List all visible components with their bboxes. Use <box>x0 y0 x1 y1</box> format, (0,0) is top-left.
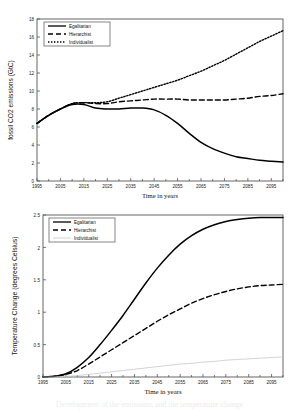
x-axis-label: Time in years <box>142 192 178 199</box>
y-tick-label: 0.5 <box>34 343 41 348</box>
x-tick-label: 2055 <box>175 380 186 385</box>
y-axis-label: fossil CO2 emissions (GtC) <box>7 60 15 140</box>
y-tick-label: 14 <box>29 53 35 58</box>
x-tick-label: 1995 <box>32 184 43 189</box>
legend-label-individualist: Individualist <box>74 236 99 241</box>
x-tick-label: 2005 <box>61 380 72 385</box>
y-tick-label: 6 <box>31 125 34 130</box>
x-axis-label: Time in years <box>144 388 181 395</box>
x-tick-label: 2015 <box>79 184 90 189</box>
x-tick-label: 2065 <box>198 380 209 385</box>
x-tick-label: 2055 <box>172 184 183 189</box>
legend-label-egalitarian: Egalitarian <box>69 24 91 29</box>
chart-bottom-canvas: 00.511.522.51995200520152025203520452055… <box>0 206 299 411</box>
x-tick-label: 2075 <box>219 184 230 189</box>
x-tick-label: 2095 <box>266 184 277 189</box>
x-tick-label: 2085 <box>244 380 255 385</box>
x-tick-label: 2025 <box>102 184 113 189</box>
x-tick-label: 2015 <box>84 380 95 385</box>
y-tick-label: 4 <box>31 143 34 148</box>
legend-label-hierarchist: Hierarchist <box>74 228 97 233</box>
series-line-hierarchist <box>43 284 283 377</box>
x-tick-label: 2045 <box>152 380 163 385</box>
x-tick-label: 2005 <box>55 184 66 189</box>
legend: EgalitarianHierarchistIndividualist <box>49 218 115 242</box>
chart-temperature-change: 00.511.522.51995200520152025203520452055… <box>0 206 299 411</box>
x-tick-label: 2085 <box>243 184 254 189</box>
series-line-egalitarian <box>37 104 283 162</box>
x-tick-label: 2065 <box>196 184 207 189</box>
x-tick-label: 2045 <box>149 184 160 189</box>
y-tick-label: 2 <box>31 161 34 166</box>
y-tick-label: 12 <box>29 71 35 76</box>
x-tick-label: 2095 <box>266 380 277 385</box>
chart-top-canvas: 0246810121416181995200520152025203520452… <box>0 0 299 206</box>
chart-fossil-co2-emissions: 0246810121416181995200520152025203520452… <box>0 0 299 206</box>
legend-label-egalitarian: Egalitarian <box>74 220 96 225</box>
y-tick-label: 2 <box>37 246 40 251</box>
y-tick-label: 10 <box>29 89 35 94</box>
series-line-individualist <box>43 357 283 377</box>
x-tick-label: 2025 <box>106 380 117 385</box>
legend: EgalitarianHierarchistIndividualist <box>44 22 110 46</box>
figure-caption: Development of the emissions and the tem… <box>0 399 299 411</box>
x-tick-label: 2075 <box>221 380 232 385</box>
y-tick-label: 1.5 <box>34 278 41 283</box>
x-tick-label: 2035 <box>129 380 140 385</box>
y-axis-label: Temperature Change (degrees Celsius) <box>11 236 19 355</box>
x-tick-label: 1995 <box>38 380 49 385</box>
legend-label-hierarchist: Hierarchist <box>69 32 92 37</box>
y-tick-label: 8 <box>31 107 34 112</box>
series-line-hierarchist <box>37 94 283 124</box>
y-tick-label: 2.5 <box>34 213 41 218</box>
y-tick-label: 16 <box>29 35 35 40</box>
legend-label-individualist: Individualist <box>69 40 94 45</box>
figure-caption-text: Development of the emissions and the tem… <box>0 399 299 411</box>
plot-area: 00.511.522.51995200520152025203520452055… <box>11 213 283 395</box>
x-tick-label: 2035 <box>126 184 137 189</box>
y-tick-label: 1 <box>37 310 40 315</box>
plot-area: 0246810121416181995200520152025203520452… <box>7 17 283 199</box>
figure-container: 0246810121416181995200520152025203520452… <box>0 0 299 411</box>
y-tick-label: 18 <box>29 17 35 22</box>
